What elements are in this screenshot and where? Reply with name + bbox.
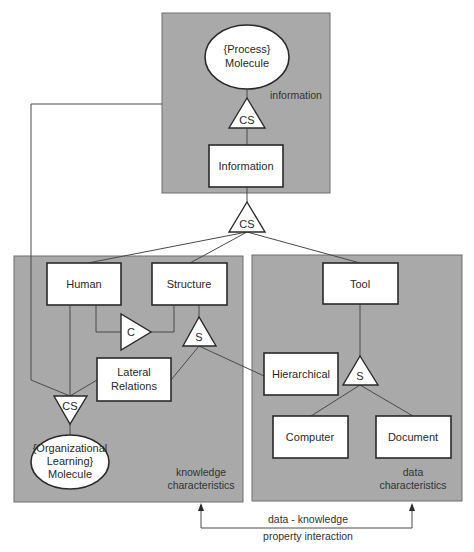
svg-text:{Organizational: {Organizational bbox=[33, 442, 108, 454]
note-knowledge-line2: characteristics bbox=[167, 479, 234, 491]
node-human[interactable]: Human bbox=[47, 263, 121, 305]
note-data-line1: data bbox=[403, 466, 424, 478]
svg-text:C: C bbox=[127, 326, 135, 338]
svg-text:Document: Document bbox=[388, 431, 438, 443]
node-tool[interactable]: Tool bbox=[323, 263, 398, 304]
svg-text:Molecule: Molecule bbox=[48, 468, 92, 480]
node-structure[interactable]: Structure bbox=[152, 263, 227, 305]
process-molecule-line2: Molecule bbox=[225, 57, 269, 69]
arrow-up-right-icon bbox=[409, 503, 415, 511]
node-document[interactable]: Document bbox=[376, 416, 451, 458]
svg-text:Learning}: Learning} bbox=[47, 455, 94, 467]
interaction-label-line1: data - knowledge bbox=[268, 513, 348, 525]
svg-text:S: S bbox=[195, 331, 202, 343]
note-data-line2: characteristics bbox=[379, 479, 446, 491]
arrow-up-left-icon bbox=[198, 503, 204, 511]
interaction-label-line2: property interaction bbox=[263, 530, 353, 542]
svg-text:Hierarchical: Hierarchical bbox=[272, 368, 330, 380]
svg-text:Relations: Relations bbox=[111, 380, 157, 392]
note-knowledge-line1: knowledge bbox=[176, 466, 226, 478]
connector-cs-middle[interactable]: CS bbox=[229, 202, 265, 232]
node-org-learning-molecule[interactable]: {Organizational Learning} Molecule bbox=[31, 435, 109, 489]
process-molecule-line1: {Process} bbox=[223, 43, 270, 55]
svg-text:Lateral: Lateral bbox=[117, 366, 151, 378]
node-process-molecule[interactable]: {Process} Molecule bbox=[205, 25, 289, 89]
diagram-canvas: {Process} Molecule information CS Inform… bbox=[0, 0, 474, 552]
svg-text:CS: CS bbox=[62, 400, 77, 412]
svg-text:Computer: Computer bbox=[286, 431, 335, 443]
node-hierarchical[interactable]: Hierarchical bbox=[264, 353, 338, 395]
node-computer[interactable]: Computer bbox=[273, 416, 348, 458]
svg-text:CS: CS bbox=[239, 218, 254, 230]
note-information: information bbox=[270, 89, 322, 101]
svg-text:S: S bbox=[356, 370, 363, 382]
svg-text:Human: Human bbox=[66, 278, 101, 290]
svg-text:Tool: Tool bbox=[350, 278, 370, 290]
svg-text:Structure: Structure bbox=[167, 278, 212, 290]
node-information[interactable]: Information bbox=[209, 145, 283, 187]
svg-text:Information: Information bbox=[218, 160, 273, 172]
node-lateral-relations[interactable]: Lateral Relations bbox=[97, 358, 171, 401]
svg-text:CS: CS bbox=[239, 114, 254, 126]
